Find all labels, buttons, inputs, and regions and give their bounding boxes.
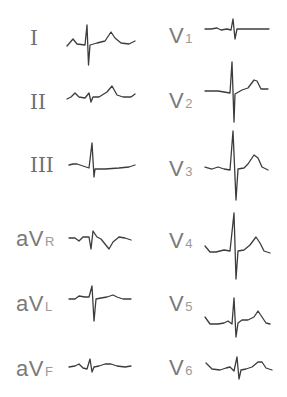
waveform-V3	[204, 130, 274, 205]
waveform-II	[65, 85, 140, 115]
lead-label-text: aV	[16, 226, 44, 251]
lead-label-text: III	[30, 153, 54, 177]
lead-label-text: II	[30, 90, 46, 114]
lead-label-V3: V3	[169, 158, 192, 180]
lead-label-subscript: F	[45, 364, 53, 379]
lead-label-text: V	[169, 156, 184, 181]
waveform-III	[67, 143, 142, 188]
waveform-aVL	[67, 285, 142, 325]
lead-label-aVR: aVR	[16, 228, 54, 250]
lead-label-subscript: R	[45, 234, 54, 249]
lead-label-aVL: aVL	[16, 293, 52, 315]
lead-label-V1: V1	[169, 25, 192, 47]
lead-label-subscript: 6	[185, 363, 192, 378]
lead-label-text: V	[169, 291, 184, 316]
waveform-V5	[204, 297, 274, 342]
waveform-V1	[205, 15, 275, 45]
lead-label-text: V	[169, 23, 184, 48]
lead-label-V2: V2	[169, 90, 192, 112]
waveform-V4	[204, 213, 274, 285]
waveform-I	[65, 25, 140, 70]
waveform-aVR	[67, 228, 142, 258]
lead-label-I: I	[30, 28, 38, 48]
lead-label-V4: V4	[169, 230, 192, 252]
lead-label-text: V	[169, 355, 184, 380]
lead-label-subscript: L	[45, 299, 52, 314]
lead-label-aVF: aVF	[16, 358, 53, 380]
lead-label-text: V	[169, 88, 184, 113]
lead-label-text: aV	[16, 356, 44, 381]
lead-label-text: I	[30, 26, 38, 50]
lead-label-III: III	[30, 155, 54, 175]
lead-label-subscript: 4	[185, 236, 192, 251]
lead-label-subscript: 5	[185, 299, 192, 314]
lead-label-text: aV	[16, 291, 44, 316]
lead-label-subscript: 1	[185, 31, 192, 46]
lead-label-text: V	[169, 228, 184, 253]
waveform-aVF	[67, 356, 142, 381]
lead-label-subscript: 3	[185, 164, 192, 179]
lead-label-subscript: 2	[185, 96, 192, 111]
lead-label-V5: V5	[169, 293, 192, 315]
waveform-V6	[206, 355, 276, 385]
waveform-V2	[204, 60, 274, 125]
lead-label-V6: V6	[169, 357, 192, 379]
lead-label-II: II	[30, 92, 46, 112]
